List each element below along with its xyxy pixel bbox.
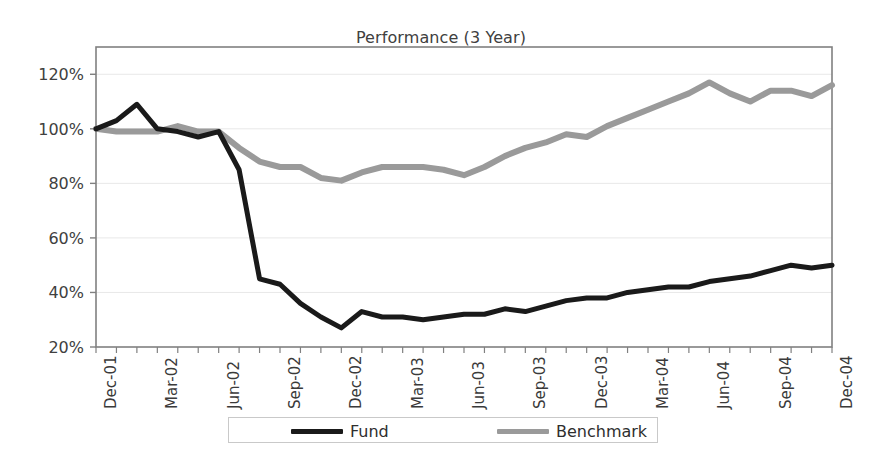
legend-label-fund: Fund [350,422,389,441]
y-axis-tick-label: 60% [0,228,84,247]
x-axis-tick-label: Dec-02 [347,355,365,409]
x-axis-tick-label: Jun-02 [225,361,243,409]
x-axis-tick-label: Dec-01 [102,355,120,409]
y-axis-tick-label: 40% [0,283,84,302]
x-axis-tick-label: Sep-03 [531,356,549,409]
x-axis-tick-label: Mar-04 [654,357,672,409]
y-axis-tick-label: 20% [0,338,84,357]
plot-area [0,0,882,465]
x-axis-tick-label: Sep-02 [286,356,304,409]
x-axis-tick-label: Jun-04 [715,361,733,409]
x-axis-tick-label: Dec-04 [838,355,856,409]
legend-item-benchmark: Benchmark [497,418,647,444]
performance-chart: Performance (3 Year) 20%40%60%80%100%120… [0,0,882,465]
legend-swatch-benchmark-icon [497,429,549,434]
x-axis-tick-label: Sep-04 [777,356,795,409]
chart-legend: Fund Benchmark [228,417,658,443]
legend-label-benchmark: Benchmark [556,422,647,441]
x-axis-tick-label: Mar-03 [409,357,427,409]
x-axis-tick-label: Mar-02 [163,357,181,409]
y-axis-tick-label: 80% [0,174,84,193]
x-axis-tick-label: Dec-03 [593,355,611,409]
x-axis-tick-label: Jun-03 [470,361,488,409]
y-axis-tick-label: 120% [0,65,84,84]
legend-swatch-fund-icon [291,429,343,434]
legend-item-fund: Fund [291,418,389,444]
y-axis-tick-label: 100% [0,119,84,138]
